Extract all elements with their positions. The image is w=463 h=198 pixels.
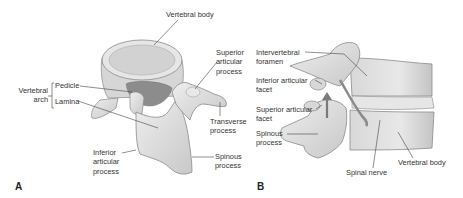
label-superior-articular-facet: Superior articular facet <box>256 105 312 124</box>
label-spinous-process-b: Spinous process <box>256 129 283 148</box>
panel-letter-a: A <box>15 181 22 192</box>
label-inferior-articular-facet: Inferior articular facet <box>256 76 307 95</box>
label-transverse-process: Transverse process <box>210 117 247 136</box>
label-pedicle: Pedicle <box>55 81 79 90</box>
label-lamina: Lamina <box>55 97 79 106</box>
label-vertebral-arch: Vertebral arch <box>14 86 48 105</box>
panel-b-spine-segment <box>280 42 434 158</box>
label-spinal-nerve: Spinal nerve <box>346 168 387 177</box>
label-inferior-articular-process: Inferior articular process <box>93 148 119 176</box>
label-superior-articular-process: Superior articular process <box>216 48 244 76</box>
label-spinous-process-a: Spinous process <box>215 152 242 171</box>
label-vertebral-body-a: Vertebral body <box>166 10 214 19</box>
label-intervertebral-foramen: Intervertebral foramen <box>256 48 300 67</box>
label-vertebral-body-b: Vertebral body <box>398 158 446 167</box>
panel-letter-b: B <box>257 181 264 192</box>
